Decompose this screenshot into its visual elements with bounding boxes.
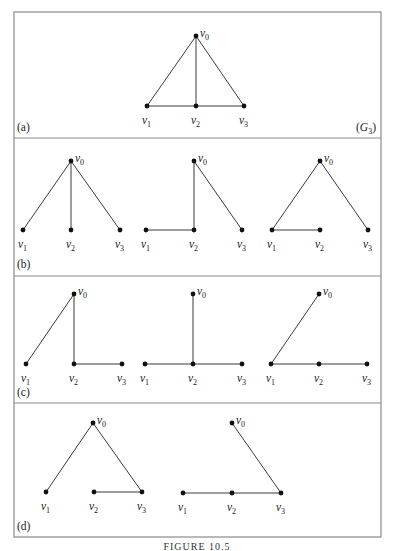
vertex-label-v2: v2 [191, 114, 200, 129]
vertex-v1 [143, 362, 148, 367]
vertex-v3 [140, 490, 145, 495]
panel-b: (b)v0v1v2v3v0v1v2v3v0v1v2v3 [17, 152, 372, 271]
graph-c-2: v0v1v2v3 [140, 285, 246, 387]
vertex-v1 [269, 362, 274, 367]
vertex-label-v0: v0 [200, 27, 209, 42]
vertex-v0 [72, 292, 77, 297]
edge-v1-v0 [272, 161, 320, 230]
graph-d-2: v0v1v2v3 [178, 414, 285, 516]
vertex-v2 [194, 104, 199, 109]
vertex-v0 [69, 159, 74, 164]
panel-label: (c) [17, 386, 30, 399]
vertex-label-v2: v2 [189, 238, 198, 253]
vertex-label-v3: v3 [363, 238, 372, 253]
vertex-v1 [44, 490, 49, 495]
vertex-v3 [118, 228, 123, 233]
vertex-v2 [192, 228, 197, 233]
vertex-label-v2: v2 [314, 372, 323, 387]
vertex-v1 [145, 104, 150, 109]
graph-b-2: v0v1v2v3 [141, 152, 246, 253]
vertex-label-v3: v3 [237, 372, 246, 387]
vertex-label-v1: v1 [18, 238, 27, 253]
vertex-label-v2: v2 [69, 372, 78, 387]
vertex-label-v0: v0 [323, 285, 332, 300]
panel-label: (b) [17, 258, 31, 271]
vertex-v3 [240, 362, 245, 367]
vertex-label-v0: v0 [97, 414, 106, 429]
panel-c: (c)v0v1v2v3v0v1v2v3v0v1v2v3 [17, 285, 371, 399]
vertex-label-v0: v0 [197, 285, 206, 300]
edge-v0-v1 [147, 36, 196, 106]
vertex-v2 [317, 362, 322, 367]
vertex-v3 [366, 228, 371, 233]
vertex-label-v1: v1 [141, 238, 150, 253]
vertex-label-v3: v3 [117, 372, 126, 387]
edge-v0-v3 [232, 423, 281, 493]
edge-v0-v3 [320, 161, 368, 230]
graph-name-label: (G3) [356, 121, 376, 136]
vertex-v0 [318, 159, 323, 164]
vertex-label-v3: v3 [115, 238, 124, 253]
vertex-v1 [21, 228, 26, 233]
vertex-label-v1: v1 [41, 500, 50, 515]
panel-dividers [14, 138, 381, 403]
vertex-v2 [92, 490, 97, 495]
panel-label: (d) [17, 520, 31, 533]
vertex-label-v2: v2 [188, 372, 197, 387]
vertex-label-v0: v0 [75, 152, 84, 167]
edge-v1-v0 [26, 294, 74, 364]
vertex-label-v0: v0 [236, 414, 245, 429]
vertex-v1 [270, 228, 275, 233]
vertex-v0 [230, 421, 235, 426]
vertex-v1 [24, 362, 29, 367]
vertex-v3 [240, 228, 245, 233]
vertex-v3 [365, 362, 370, 367]
vertex-label-v1: v1 [266, 372, 275, 387]
graph-c-1: v0v1v2v3 [21, 285, 126, 387]
vertex-label-v2: v2 [315, 238, 324, 253]
vertex-v1 [144, 228, 149, 233]
vertex-label-v0: v0 [198, 152, 207, 167]
vertex-label-v1: v1 [178, 501, 187, 516]
edge-v0-v3 [71, 161, 120, 230]
graph-d-1: v0v1v2v3 [41, 414, 146, 515]
vertex-v0 [191, 292, 196, 297]
graph-a-1: v0v1v2v3 [142, 27, 248, 129]
edge-v0-v1 [23, 161, 71, 230]
edge-v0-v3 [196, 36, 244, 106]
vertex-v0 [192, 159, 197, 164]
vertex-v3 [120, 362, 125, 367]
vertex-v2 [69, 228, 74, 233]
vertex-label-v1: v1 [267, 238, 276, 253]
vertex-label-v1: v1 [140, 372, 149, 387]
vertex-label-v3: v3 [276, 501, 285, 516]
vertex-label-v1: v1 [21, 372, 30, 387]
vertex-v2 [191, 362, 196, 367]
edge-v1-v0 [46, 423, 93, 492]
vertex-label-v2: v2 [66, 238, 75, 253]
vertex-v2 [72, 362, 77, 367]
edge-v0-v3 [194, 161, 242, 230]
vertex-label-v3: v3 [362, 372, 371, 387]
vertex-v0 [194, 34, 199, 39]
edge-v1-v0 [271, 294, 319, 364]
edge-v0-v3 [93, 423, 142, 492]
vertex-v3 [279, 491, 284, 496]
panel-d: (d)v0v1v2v3v0v1v2v3 [17, 414, 285, 533]
graph-c-3: v0v1v2v3 [266, 285, 371, 387]
panel-label: (a) [17, 121, 30, 134]
vertex-label-v1: v1 [142, 114, 151, 129]
graph-b-3: v0v1v2v3 [267, 152, 372, 253]
panel-a: (a)(G3)v0v1v2v3 [17, 27, 376, 136]
vertex-label-v0: v0 [78, 285, 87, 300]
vertex-v2 [230, 491, 235, 496]
spanning-trees-diagram: (a)(G3)v0v1v2v3(b)v0v1v2v3v0v1v2v3v0v1v2… [0, 0, 394, 551]
vertex-v3 [242, 104, 247, 109]
vertex-v1 [181, 491, 186, 496]
figure-10-5: (a)(G3)v0v1v2v3(b)v0v1v2v3v0v1v2v3v0v1v2… [0, 0, 394, 551]
vertex-label-v3: v3 [239, 114, 248, 129]
vertex-label-v2: v2 [89, 500, 98, 515]
vertex-v0 [317, 292, 322, 297]
vertex-label-v3: v3 [237, 238, 246, 253]
vertex-v2 [318, 228, 323, 233]
